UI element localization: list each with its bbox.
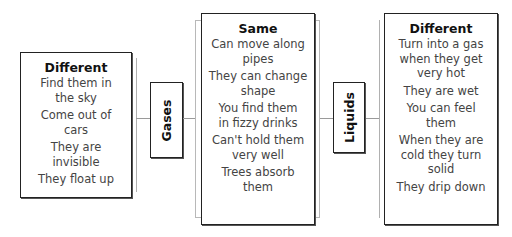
list-item: You find them in fizzy drinks <box>210 101 306 130</box>
list-item: They float up <box>35 172 117 187</box>
box-heading: Different <box>45 60 108 76</box>
list-item: Come out of cars <box>28 108 124 137</box>
gases-label: Gases <box>159 99 174 141</box>
list-item: They drip down <box>393 180 488 195</box>
box-heading: Same <box>239 21 278 37</box>
list-item: They can change shape <box>205 69 311 98</box>
liquids-label-box: Liquids <box>333 82 365 153</box>
liquids-right-connector <box>365 118 379 119</box>
list-item: You can feel them <box>396 101 486 130</box>
gases-different-box: Different Find them in the sky Come out … <box>20 52 132 198</box>
left-connector <box>136 118 150 119</box>
liquids-label: Liquids <box>342 92 357 143</box>
list-item: Can't hold them very well <box>203 133 313 162</box>
list-item: Can move along pipes <box>205 37 311 66</box>
list-item: They are invisible <box>33 140 119 169</box>
right-bracket-line <box>379 20 380 218</box>
box-heading: Different <box>410 21 473 37</box>
liquids-left-connector <box>320 118 333 119</box>
gases-label-box: Gases <box>150 82 183 158</box>
liquids-different-box: Different Turn into a gas when they get … <box>384 13 498 225</box>
same-box: Same Can move along pipes They can chang… <box>201 13 315 225</box>
left-bracket-line <box>136 58 137 192</box>
list-item: When they are cold they turn solid <box>386 133 496 177</box>
list-item: Turn into a gas when they get very hot <box>390 37 492 81</box>
list-item: Trees absorb them <box>210 165 306 194</box>
list-item: Find them in the sky <box>28 76 124 105</box>
list-item: They are wet <box>400 84 481 99</box>
gases-connector <box>183 118 195 119</box>
